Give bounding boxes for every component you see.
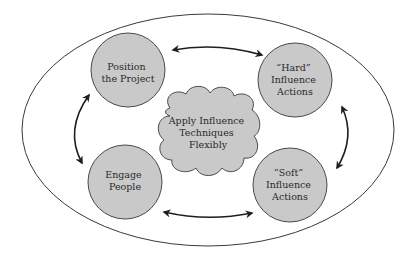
node-line-1: Position [107, 61, 145, 72]
node-line-2: People [109, 181, 141, 192]
influence-cycle-diagram: Apply Influence Techniques Flexibly Posi… [0, 0, 417, 262]
node-line-3: Actions [271, 191, 308, 202]
center-line-2: Techniques [179, 127, 234, 138]
node-line-2: Influence [266, 179, 311, 190]
arrow-hard-soft [337, 107, 348, 168]
node-position-project: Position the Project [91, 33, 165, 107]
center-cloud: Apply Influence Techniques Flexibly [158, 86, 259, 175]
arrow-position-hard [173, 47, 262, 55]
node-label: Engage People [105, 169, 145, 192]
node-line-2: the Project [102, 73, 155, 84]
node-line-2: Influence [271, 74, 316, 85]
node-label: “Hard” Influence Actions [271, 62, 319, 97]
arrow-engage-position [74, 95, 89, 163]
node-line-1: “Soft” [274, 167, 303, 178]
center-line-1: Apply Influence [168, 115, 245, 126]
node-line-3: Actions [276, 86, 313, 97]
node-line-1: Engage [105, 169, 142, 180]
node-label: Position the Project [102, 61, 155, 84]
node-soft-influence: “Soft” Influence Actions [253, 148, 327, 222]
arrow-soft-engage [164, 212, 252, 217]
node-hard-influence: “Hard” Influence Actions [258, 43, 332, 117]
node-line-1: “Hard” [276, 62, 310, 73]
node-engage-people: Engage People [88, 145, 162, 219]
center-line-3: Flexibly [189, 139, 228, 150]
